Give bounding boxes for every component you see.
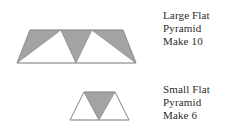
- large-flat-pyramid-svg: [8, 24, 154, 70]
- small-label-line-3: Make 6: [163, 109, 210, 122]
- diagram-page: Large Flat Pyramid Make 10 Small Flat Py…: [0, 0, 239, 133]
- large-label-line-2: Pyramid: [163, 22, 210, 35]
- small-flat-pyramid-svg: [60, 86, 140, 126]
- small-flat-pyramid-label: Small Flat Pyramid Make 6: [163, 83, 210, 123]
- small-flat-pyramid-figure: [60, 86, 140, 126]
- large-label-line-3: Make 10: [163, 35, 210, 48]
- small-label-line-1: Small Flat: [163, 83, 210, 96]
- large-flat-pyramid-figure: [8, 24, 154, 70]
- large-label-line-1: Large Flat: [163, 9, 210, 22]
- large-flat-pyramid-label: Large Flat Pyramid Make 10: [163, 9, 210, 49]
- small-label-line-2: Pyramid: [163, 96, 210, 109]
